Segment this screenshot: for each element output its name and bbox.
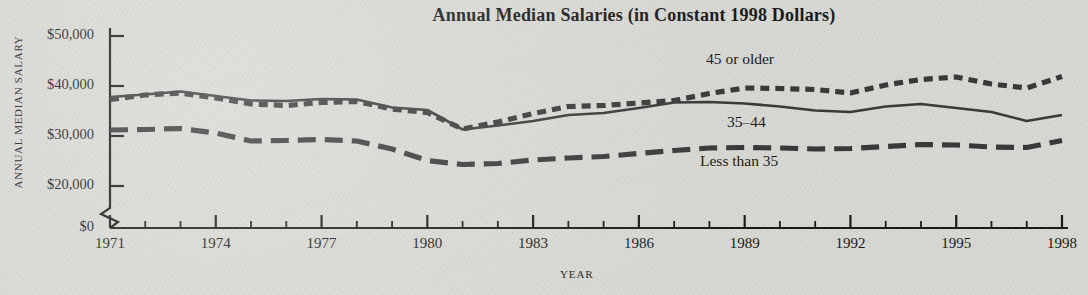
y-tick-label: $50,000 (8, 26, 94, 43)
x-tick-label: 1980 (392, 235, 462, 252)
series-line (110, 92, 1062, 130)
x-tick-label: 1977 (287, 235, 357, 252)
x-tick-label: 1992 (815, 235, 885, 252)
y-tick-label: $40,000 (8, 76, 94, 93)
y-axis-title: ANNUAL MEDIAN SALARY (12, 27, 24, 197)
x-tick-label: 1998 (1027, 235, 1088, 252)
y-tick-label: $0 (8, 218, 94, 235)
series-label-45-or-older: 45 or older (706, 50, 774, 68)
x-axis-title: YEAR (560, 268, 594, 280)
y-tick-label: $20,000 (8, 176, 94, 193)
series-label-less-than-35: Less than 35 (700, 152, 778, 170)
x-tick-label: 1986 (604, 235, 674, 252)
series-line (110, 77, 1062, 130)
x-tick-label: 1995 (921, 235, 991, 252)
x-tick-label: 1971 (75, 235, 145, 252)
x-tick-label: 1983 (498, 235, 568, 252)
series-label-35-44: 35–44 (727, 113, 766, 131)
y-tick-label: $30,000 (8, 126, 94, 143)
series-line (110, 129, 1062, 165)
x-tick-label: 1989 (710, 235, 780, 252)
x-tick-label: 1974 (181, 235, 251, 252)
